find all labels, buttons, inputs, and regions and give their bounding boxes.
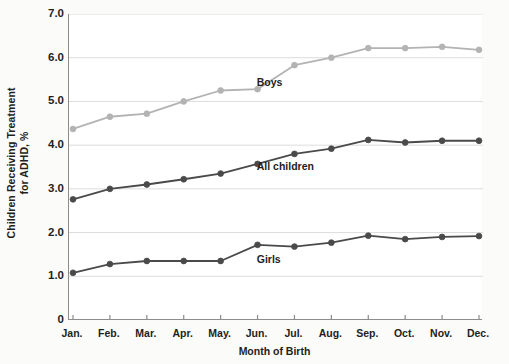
data-point [107,261,113,267]
data-point [144,111,150,117]
data-point [439,234,445,240]
x-tick-label: Dec. [455,327,501,339]
y-tick-label: 7.0 [34,8,64,19]
data-point [476,138,482,144]
data-point [292,244,298,250]
data-point [107,114,113,120]
data-point [328,55,334,61]
data-point [476,233,482,239]
y-tick-label: 5.0 [34,95,64,106]
y-tick-label: 6.0 [34,52,64,63]
series-label-boys: Boys [257,76,283,88]
y-axis-title: Children Receiving Treatment for ADHD, % [0,0,34,325]
data-point [328,146,334,152]
y-axis-title-line2: for ADHD, % [17,87,30,238]
y-axis-title-line1: Children Receiving Treatment [5,87,18,238]
data-point [144,182,150,188]
data-point [107,186,113,192]
data-point [70,196,76,202]
data-point [328,240,334,246]
series-label-all-children: All children [257,160,314,172]
data-point [218,88,224,94]
data-point [476,47,482,53]
x-axis-title: Month of Birth [0,345,509,357]
y-axis-tick-labels: 01.02.03.04.05.06.07.0 [32,0,64,364]
y-tick-label: 4.0 [34,139,64,150]
data-point [292,62,298,68]
data-point [365,45,371,51]
y-tick-label: 2.0 [34,227,64,238]
data-point [181,99,187,105]
data-point [218,258,224,264]
data-point [402,45,408,51]
data-point [365,233,371,239]
data-point [439,44,445,50]
data-point [439,138,445,144]
data-point [292,151,298,157]
series-boys [70,44,482,132]
data-point [255,242,261,248]
y-tick-label: 1.0 [34,270,64,281]
series-label-girls: Girls [257,253,281,265]
y-tick-label: 3.0 [34,183,64,194]
y-tick-label: 0 [34,314,64,325]
data-point [181,176,187,182]
data-point [70,270,76,276]
data-point [218,171,224,177]
data-point [144,258,150,264]
data-point [181,258,187,264]
data-point [365,137,371,143]
data-point [402,140,408,146]
data-point [70,126,76,132]
series-line [73,47,479,129]
data-point [402,236,408,242]
chart-figure: Children Receiving Treatment for ADHD, %… [0,0,509,364]
